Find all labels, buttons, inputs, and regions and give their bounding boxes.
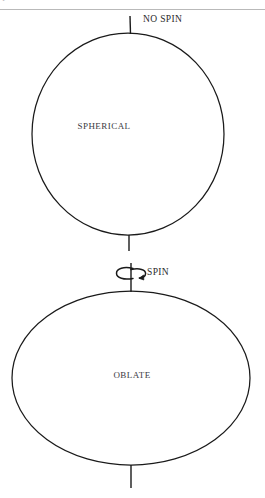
figure-canvas: [0, 0, 265, 498]
spherical-body-outline: [32, 33, 224, 235]
spherical-body-label: SPHERICAL: [77, 121, 130, 131]
rotation-axis-icon-top-spherical: [130, 16, 131, 34]
no-spin-label: NO SPIN: [143, 14, 182, 24]
oblate-body-label: OBLATE: [113, 370, 150, 380]
spin-label: SPIN: [147, 267, 169, 277]
figure-root: 1 = = = = = =: [0, 0, 265, 498]
panel-spherical: [32, 16, 224, 251]
